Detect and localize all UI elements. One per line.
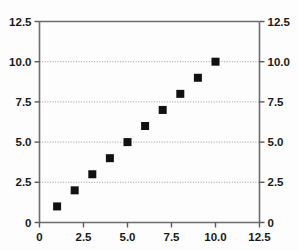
data-point-marker bbox=[141, 122, 149, 130]
data-point-marker bbox=[194, 74, 202, 82]
data-point-marker bbox=[71, 186, 79, 194]
x-axis-tick-label: 7.5 bbox=[164, 231, 181, 243]
x-axis-tick-label: 0 bbox=[36, 231, 42, 243]
y-axis-left-tick-label: 2.5 bbox=[16, 176, 33, 188]
data-point-marker bbox=[53, 202, 61, 210]
y-axis-right-tick-label: 2.5 bbox=[268, 176, 285, 188]
data-point-marker bbox=[106, 154, 114, 162]
x-axis-tick-label: 2.5 bbox=[76, 231, 93, 243]
data-point-marker bbox=[88, 170, 96, 178]
x-axis-tick-label: 12.5 bbox=[248, 231, 271, 243]
y-axis-left-tick-label: 7.5 bbox=[16, 96, 33, 108]
x-axis-tick-label: 10.0 bbox=[204, 231, 226, 243]
y-axis-left-tick-label: 5.0 bbox=[16, 136, 32, 148]
data-point-marker bbox=[159, 106, 167, 114]
y-axis-right-tick-label: 5.0 bbox=[268, 136, 284, 148]
y-axis-left-tick-label: 0 bbox=[25, 217, 31, 229]
scatter-chart: 02.55.07.510.012.502.55.07.510.012.502.5… bbox=[0, 0, 298, 251]
chart-canvas: 02.55.07.510.012.502.55.07.510.012.502.5… bbox=[0, 0, 298, 251]
y-axis-left-tick-label: 12.5 bbox=[9, 16, 32, 28]
data-point-marker bbox=[176, 90, 184, 98]
y-axis-right-tick-label: 12.5 bbox=[268, 16, 291, 28]
y-axis-right-tick-label: 10.0 bbox=[268, 56, 290, 68]
data-point-marker bbox=[212, 58, 220, 66]
y-axis-left-tick-label: 10.0 bbox=[9, 56, 31, 68]
data-point-marker bbox=[124, 138, 132, 146]
y-axis-right-tick-label: 0 bbox=[268, 217, 274, 229]
x-axis-tick-label: 5.0 bbox=[120, 231, 136, 243]
y-axis-right-tick-label: 7.5 bbox=[268, 96, 285, 108]
